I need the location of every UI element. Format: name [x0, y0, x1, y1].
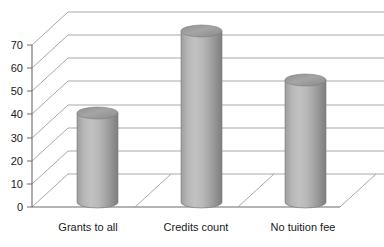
bar-chart-3d: 70 60 50 40 30 20 10 0 [0, 0, 384, 247]
category-label-1: Grants to all [58, 221, 117, 233]
y-tick-label-0: 0 [17, 201, 23, 213]
bar-3-top [285, 74, 326, 86]
y-tick-label-70: 70 [11, 39, 23, 51]
bar-1-top [77, 107, 118, 119]
y-tick-label-40: 40 [11, 108, 23, 120]
bar-cylinder-grants-to-all[interactable] [77, 107, 118, 208]
bar-2-body [181, 31, 222, 208]
category-label-2: Credits count [164, 221, 229, 233]
y-tick-label-10: 10 [11, 178, 23, 190]
y-tick-label-50: 50 [11, 85, 23, 97]
floor-right-edge [340, 174, 376, 207]
y-tick-label-20: 20 [11, 155, 23, 167]
bar-cylinder-no-tuition-fee[interactable] [285, 74, 326, 208]
bar-2-top [181, 25, 222, 37]
chart-canvas: 70 60 50 40 30 20 10 0 [0, 0, 384, 247]
floor-divider-2 [238, 174, 274, 207]
bar-cylinder-credits-count[interactable] [181, 25, 222, 208]
bar-1-body [77, 113, 118, 208]
bar-3-body [285, 80, 326, 208]
y-tick-label-30: 30 [11, 132, 23, 144]
y-axis [27, 45, 32, 207]
floor-divider-1 [135, 174, 171, 207]
x-axis-labels: Grants to all Credits count No tuition f… [58, 221, 335, 233]
y-tick-labels: 70 60 50 40 30 20 10 0 [11, 39, 23, 213]
category-label-3: No tuition fee [271, 221, 336, 233]
y-tick-label-60: 60 [11, 62, 23, 74]
